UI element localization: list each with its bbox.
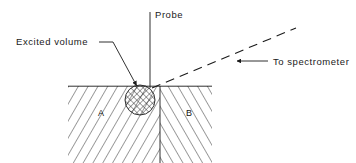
to-spectrometer-label: To spectrometer	[273, 56, 349, 67]
schematic-diagram: Excited volume Probe To spectrometer A B	[0, 0, 356, 163]
region-b-hatch-fill	[160, 86, 212, 163]
specimen-region-b	[160, 86, 212, 163]
excited-volume-leader-line	[99, 42, 137, 86]
probe-label: Probe	[155, 9, 183, 20]
region-a-label: A	[98, 108, 104, 118]
excited-volume-label: Excited volume	[16, 36, 88, 47]
figure-canvas: Excited volume Probe To spectrometer A B	[0, 0, 356, 163]
region-b-label: B	[186, 108, 192, 118]
